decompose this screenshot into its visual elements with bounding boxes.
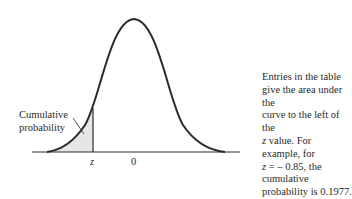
desc-line: z = – 0.85, the cumulative [262, 161, 352, 187]
label-line: Cumulative [19, 109, 68, 122]
z-tick-label: z [90, 156, 94, 169]
desc-line: curve to the left of the [262, 109, 352, 135]
desc-line: z value. For example, for [262, 135, 352, 161]
label-line: probability [19, 122, 68, 135]
desc-line: give the area under the [262, 84, 352, 110]
callout-arrow [73, 118, 84, 134]
desc-text: value. For example, for [262, 135, 315, 159]
desc-text: = – 0.85, the cumulative [262, 161, 322, 185]
desc-line: probability is 0.1977. [262, 186, 352, 199]
description-text: Entries in the table give the area under… [262, 71, 352, 199]
desc-line: Entries in the table [262, 71, 352, 84]
zero-tick-label: 0 [131, 156, 136, 169]
bell-curve [47, 19, 225, 152]
cumulative-probability-label: Cumulative probability [19, 109, 68, 134]
